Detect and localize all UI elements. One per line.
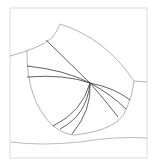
- radial-line: [27, 76, 90, 83]
- radial-line: [90, 83, 118, 117]
- frame-border: [10, 8, 147, 158]
- outer-curve: [60, 24, 134, 81]
- radial-line: [60, 83, 90, 129]
- bottom-wave-line: [11, 138, 147, 145]
- radial-lines: [27, 40, 130, 134]
- pattern-diagram: [0, 0, 159, 167]
- pattern-drawing: [0, 0, 159, 167]
- upper-arc-line: [10, 24, 60, 56]
- radial-line: [90, 83, 130, 100]
- radial-line: [90, 83, 126, 109]
- right-ledge: [134, 81, 147, 82]
